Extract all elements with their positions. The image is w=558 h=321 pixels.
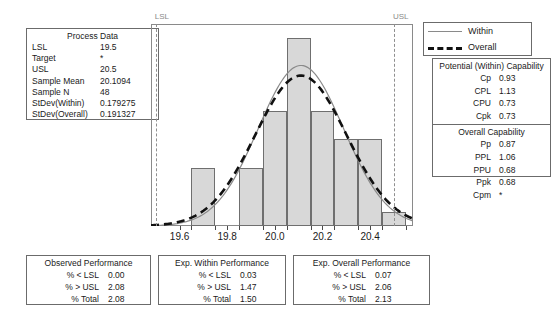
exp-overall-performance-rows: % < LSL0.07% > USL2.06% Total2.13 [294, 269, 429, 305]
row-label: Target [32, 53, 100, 64]
axis-tick [227, 226, 228, 230]
table-row: CPU0.73 [433, 97, 550, 110]
row-value: 0.73 [499, 110, 550, 123]
row-label: Cp [433, 72, 499, 85]
lsl-label: LSL [155, 12, 169, 21]
exp-within-performance-title: Exp. Within Performance [159, 256, 285, 269]
axis-tick-label: 19.8 [217, 231, 236, 242]
observed-performance-rows: % < LSL0.00% > USL2.08% Total2.08 [27, 269, 150, 305]
exp-within-performance-panel: Exp. Within Performance % < LSL0.03% > U… [158, 255, 286, 305]
axis-tick [358, 226, 359, 230]
row-label: USL [32, 64, 100, 75]
table-row: % Total2.13 [294, 293, 429, 305]
exp-overall-performance-title: Exp. Overall Performance [294, 256, 429, 269]
table-row: Cpm* [433, 189, 550, 202]
axis-tick [406, 226, 407, 230]
table-row: % < LSL0.00 [27, 269, 150, 281]
row-value: 0.179275 [100, 98, 158, 109]
table-row: % Total1.50 [159, 293, 285, 305]
row-value: 2.13 [375, 293, 429, 305]
row-label: % < LSL [159, 269, 240, 281]
table-row: Cpk0.73 [433, 110, 550, 123]
process-data-rows: LSL19.5Target*USL20.5Sample Mean20.1094S… [27, 42, 158, 120]
row-label: StDev(Overall) [32, 109, 100, 120]
row-label: Ppk [433, 176, 499, 189]
usl-label: USL [393, 12, 409, 21]
capability-histogram: LSLUSL [151, 24, 413, 226]
table-row: % Total2.08 [27, 293, 150, 305]
table-row: Pp0.87 [433, 138, 550, 151]
row-label: Cpk [433, 110, 499, 123]
row-value: 0.87 [499, 138, 550, 151]
row-value: 0.93 [499, 72, 550, 85]
row-value: 1.50 [240, 293, 285, 305]
row-value: * [100, 53, 158, 64]
legend-item-overall: Overall [424, 39, 531, 55]
table-row: Target* [27, 53, 158, 64]
row-label: % > USL [159, 281, 240, 293]
table-row: StDev(Within)0.179275 [27, 98, 158, 109]
row-label: Sample Mean [32, 76, 100, 87]
capability-panel: Potential (Within) Capability Cp0.93CPL1… [432, 58, 551, 177]
legend-item-within: Within [424, 23, 531, 39]
axis-tick-label: 20.0 [265, 231, 284, 242]
row-label: % Total [27, 293, 108, 305]
x-axis: 19.619.820.020.220.4 [151, 226, 413, 252]
row-value: 2.08 [108, 293, 150, 305]
axis-tick [275, 226, 276, 230]
observed-performance-title: Observed Performance [27, 256, 150, 269]
axis-tick [382, 226, 383, 230]
row-value: 0.00 [108, 269, 150, 281]
table-row: % > USL2.06 [294, 281, 429, 293]
row-value: * [499, 189, 550, 202]
row-label: % < LSL [27, 269, 108, 281]
table-row: USL20.5 [27, 64, 158, 75]
within-line-icon [428, 26, 462, 36]
table-row: % > USL2.08 [27, 281, 150, 293]
row-value: 0.68 [499, 164, 550, 177]
row-label: PPL [433, 151, 499, 164]
row-value: 0.07 [375, 269, 429, 281]
row-value: 1.13 [499, 85, 550, 98]
axis-tick [322, 226, 323, 230]
row-value: 1.47 [240, 281, 285, 293]
row-label: % Total [159, 293, 240, 305]
table-row: CPL1.13 [433, 85, 550, 98]
exp-within-performance-rows: % < LSL0.03% > USL1.47% Total1.50 [159, 269, 285, 305]
overall-curve [151, 76, 413, 226]
row-label: Pp [433, 138, 499, 151]
axis-tick-label: 19.6 [170, 231, 189, 242]
legend-label-overall: Overall [468, 42, 497, 52]
row-value: 0.03 [240, 269, 285, 281]
row-label: LSL [32, 42, 100, 53]
observed-performance-panel: Observed Performance % < LSL0.00% > USL2… [26, 255, 151, 305]
distribution-curves [151, 24, 413, 226]
table-row: Sample Mean20.1094 [27, 76, 158, 87]
axis-tick [287, 226, 288, 230]
process-data-title: Process Data [27, 29, 158, 42]
row-value: 2.06 [375, 281, 429, 293]
exp-overall-performance-panel: Exp. Overall Performance % < LSL0.07% > … [293, 255, 430, 305]
axis-tick [311, 226, 312, 230]
axis-tick-label: 20.2 [313, 231, 332, 242]
row-value: 1.06 [499, 151, 550, 164]
axis-tick [215, 226, 216, 230]
axis-tick [191, 226, 192, 230]
within-capability-rows: Cp0.93CPL1.13CPU0.73Cpk0.73 [433, 72, 550, 122]
table-row: % < LSL0.03 [159, 269, 285, 281]
table-row: Ppk0.68 [433, 176, 550, 189]
row-value: 48 [100, 87, 158, 98]
row-value: 0.191327 [100, 109, 158, 120]
axis-tick-label: 20.4 [360, 231, 379, 242]
row-label: % > USL [294, 281, 375, 293]
table-row: LSL19.5 [27, 42, 158, 53]
row-value: 0.73 [499, 97, 550, 110]
row-label: CPL [433, 85, 499, 98]
axis-tick [180, 226, 181, 230]
axis-tick [263, 226, 264, 230]
table-row: PPL1.06 [433, 151, 550, 164]
table-row: PPU0.68 [433, 164, 550, 177]
lsl-line [156, 24, 157, 226]
row-value: 19.5 [100, 42, 158, 53]
axis-tick [334, 226, 335, 230]
